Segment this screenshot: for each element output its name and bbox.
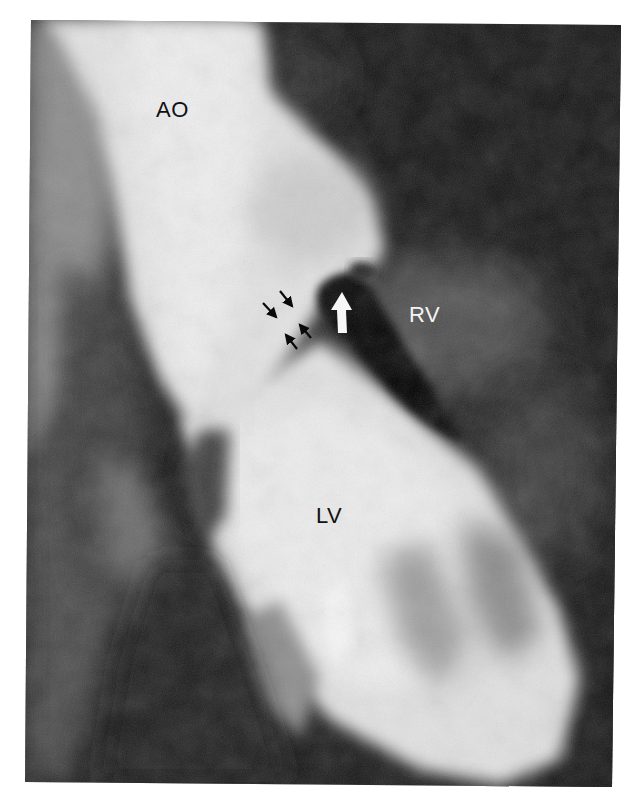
angiogram-figure: AO RV LV [0, 0, 633, 797]
label-right-ventricle: RV [409, 304, 440, 326]
angiogram-image [0, 0, 633, 797]
label-aorta: AO [156, 99, 189, 121]
label-left-ventricle: LV [316, 505, 342, 527]
